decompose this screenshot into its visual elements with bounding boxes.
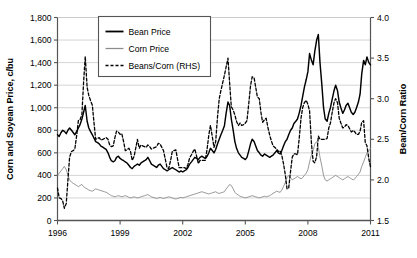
x-tick-label: 2005: [236, 228, 255, 238]
left-tick-label: 800: [37, 125, 52, 135]
right-tick-label: 4.0: [377, 13, 389, 23]
x-tick-label: 2011: [361, 228, 380, 238]
series-line-beans-corn-rhs: [58, 56, 371, 208]
left-tick-label: 1,000: [30, 103, 52, 113]
x-tick-label: 1999: [111, 228, 130, 238]
x-tick-label: 2008: [298, 228, 317, 238]
left-tick-label: 1,200: [30, 80, 52, 90]
x-tick-label: 2002: [173, 228, 192, 238]
x-tick-label: 1996: [48, 228, 67, 238]
right-tick-label: 1.5: [377, 216, 389, 226]
bean-corn-price-chart: 02004006008001,0001,2001,4001,6001,8001.…: [0, 0, 417, 258]
left-tick-label: 600: [37, 148, 52, 158]
chart-container: 02004006008001,0001,2001,4001,6001,8001.…: [0, 0, 417, 258]
series-line-corn-price: [58, 142, 371, 200]
left-tick-label: 1,400: [30, 58, 52, 68]
left-tick-label: 200: [37, 193, 52, 203]
y-axis-title: Corn and Soyean Price, c/bu: [5, 58, 15, 180]
y2-axis-title: Bean/Corn Ratio: [398, 83, 408, 154]
right-tick-label: 2.5: [377, 134, 389, 144]
legend-label: Bean Price: [129, 27, 171, 37]
right-tick-label: 2.0: [377, 175, 389, 185]
legend-label: Corn Price: [129, 44, 170, 54]
legend-label: Beans/Corn (RHS): [129, 61, 201, 71]
left-tick-label: 0: [47, 216, 52, 226]
right-tick-label: 3.5: [377, 53, 389, 63]
left-tick-label: 400: [37, 170, 52, 180]
left-tick-label: 1,800: [30, 13, 52, 23]
legend: Bean PriceCorn PriceBeans/Corn (RHS): [99, 17, 211, 77]
right-tick-label: 3.0: [377, 94, 389, 104]
left-tick-label: 1,600: [30, 35, 52, 45]
